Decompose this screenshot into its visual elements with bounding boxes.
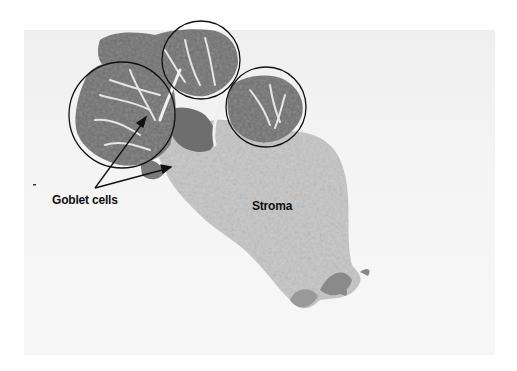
stray-mark <box>33 184 36 186</box>
goblet-cells-label: Goblet cells <box>52 193 118 207</box>
stroma-label: Stroma <box>252 199 292 213</box>
histology-figure <box>0 0 517 371</box>
stroma-tissue <box>150 120 370 308</box>
